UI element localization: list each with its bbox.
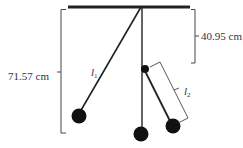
rest-bob xyxy=(134,127,149,142)
pendulum-2-string xyxy=(145,71,170,121)
pendulum-diagram: 71.57 cm 40.95 cm l1 l2 xyxy=(0,0,243,148)
total-length-bracket xyxy=(57,10,66,134)
support-bar xyxy=(68,6,190,9)
upper-length-label: 40.95 cm xyxy=(201,30,242,42)
pendulum-1-string xyxy=(80,7,141,112)
l2-label: l2 xyxy=(184,85,191,99)
upper-length-bracket xyxy=(191,10,199,64)
pendulum-1-bob xyxy=(72,109,87,124)
total-length-label: 71.57 cm xyxy=(8,70,49,82)
l1-label: l1 xyxy=(91,66,98,80)
pendulum-2-bob xyxy=(166,119,181,134)
